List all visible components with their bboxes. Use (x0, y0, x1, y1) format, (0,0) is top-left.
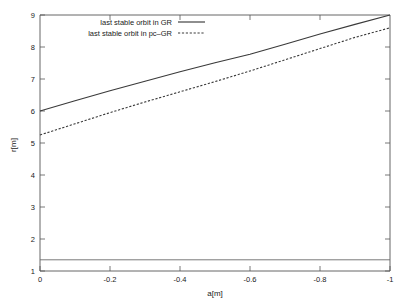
x-tick-labels: 0 -0.2 -0.4 -0.6 -0.8 -1 (38, 275, 393, 284)
legend-label-gr: last stable orbit in GR (100, 18, 172, 27)
y-tick-label-2: 2 (31, 235, 35, 244)
y-tick-label-8: 8 (31, 43, 35, 52)
y-tick-label-6: 6 (31, 107, 35, 116)
x-tick-label-2: -0.4 (174, 275, 187, 284)
y-tick-labels: 1 2 3 4 5 6 7 8 9 (31, 11, 35, 276)
y-tick-label-7: 7 (31, 75, 35, 84)
plot-frame (40, 15, 390, 271)
x-axis-title: a[m] (207, 289, 223, 298)
y-tick-label-3: 3 (31, 203, 35, 212)
x-tick-marks (40, 15, 390, 271)
y-tick-label-5: 5 (31, 139, 35, 148)
figure-container: 1 2 3 4 5 6 7 8 9 0 -0.2 -0.4 (0, 0, 410, 306)
x-tick-label-3: -0.6 (244, 275, 257, 284)
y-tick-label-9: 9 (31, 11, 35, 20)
x-tick-label-0: 0 (38, 275, 42, 284)
chart-canvas: 1 2 3 4 5 6 7 8 9 0 -0.2 -0.4 (0, 0, 410, 306)
series-group (40, 15, 390, 260)
series-last-stable-orbit-pc-gr (40, 28, 390, 135)
legend: last stable orbit in GR last stable orbi… (88, 18, 205, 38)
legend-label-pc-gr: last stable orbit in pc–GR (88, 29, 172, 38)
y-tick-marks (40, 15, 390, 271)
x-tick-label-4: -0.8 (314, 275, 327, 284)
y-axis-title: r[m] (9, 138, 18, 152)
y-tick-label-1: 1 (31, 267, 35, 276)
x-tick-label-1: -0.2 (104, 275, 117, 284)
x-tick-label-5: -1 (387, 275, 394, 284)
y-tick-label-4: 4 (31, 171, 35, 180)
